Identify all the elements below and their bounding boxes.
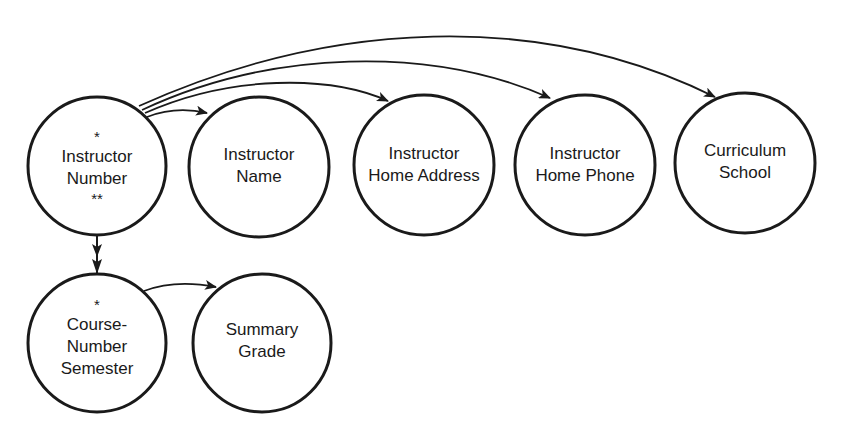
secondary-key-mark: **	[62, 190, 133, 208]
edge-number-to-phone	[142, 61, 550, 110]
node-summary-grade: Summary Grade	[226, 319, 299, 363]
node-instructor-home-phone: Instructor Home Phone	[535, 143, 634, 187]
node-label-line: School	[704, 162, 786, 184]
node-curriculum-school: Curriculum School	[704, 140, 786, 184]
edge-number-to-name	[147, 110, 207, 117]
node-label-line: Instructor	[224, 144, 295, 166]
node-instructor-home-address: Instructor Home Address	[368, 143, 480, 187]
key-mark: *	[61, 296, 134, 314]
node-instructor-name: Instructor Name	[224, 144, 295, 188]
node-label-line: Number	[61, 336, 134, 358]
key-mark: *	[62, 128, 133, 146]
node-label-line: Instructor	[535, 143, 634, 165]
node-label-line: Semester	[61, 358, 134, 380]
node-label-line: Instructor	[62, 146, 133, 168]
node-course-number-semester: * Course- Number Semester	[61, 296, 134, 380]
node-label-line: Number	[62, 168, 133, 190]
node-label-line: Course-	[61, 314, 134, 336]
node-label-line: Grade	[226, 341, 299, 363]
node-instructor-number: * Instructor Number **	[62, 128, 133, 208]
node-label-line: Instructor	[368, 143, 480, 165]
node-label-line: Curriculum	[704, 140, 786, 162]
node-label-line: Home Phone	[535, 165, 634, 187]
edge-course-to-grade	[144, 284, 216, 291]
node-label-line: Summary	[226, 319, 299, 341]
node-label-line: Name	[224, 166, 295, 188]
node-label-line: Home Address	[368, 165, 480, 187]
